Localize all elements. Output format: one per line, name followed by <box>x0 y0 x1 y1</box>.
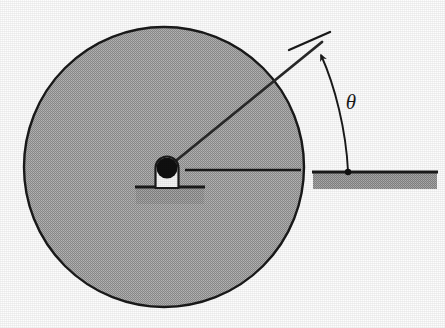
left-ground-block <box>135 187 205 204</box>
axle-center-dot <box>157 158 178 179</box>
right-ground-fill <box>313 172 437 189</box>
diagram-canvas: θ <box>0 0 445 328</box>
right-ground-bar <box>312 172 438 189</box>
left-ground-fill <box>136 187 204 204</box>
physics-diagram-figure: θ <box>0 0 445 328</box>
theta-label: θ <box>346 90 356 114</box>
arc-base-point <box>345 169 351 175</box>
pivot-hub <box>156 157 179 189</box>
